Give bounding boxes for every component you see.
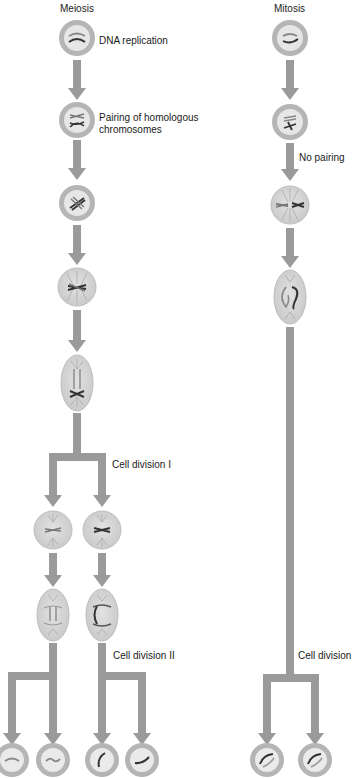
cell-meiosis-metaphase-1 xyxy=(58,268,96,306)
cell-mitosis-interphase xyxy=(272,20,308,56)
label-no-pairing: No pairing xyxy=(299,152,345,164)
cell-meiosis-anaphase-2-left xyxy=(37,589,69,641)
branch-mitosis-cell-division xyxy=(258,327,324,745)
cell-meiosis-interphase xyxy=(59,20,95,56)
header-meiosis: Meiosis xyxy=(60,3,94,15)
cell-meiosis-tetrad xyxy=(59,185,95,221)
header-mitosis: Mitosis xyxy=(274,3,305,15)
cell-meiosis-metaphase-2-left xyxy=(34,511,72,549)
label-dna-replication: DNA replication xyxy=(99,35,168,47)
arrow-right-metaphase2 xyxy=(93,553,111,587)
cell-meiosis-anaphase-2-right xyxy=(86,589,118,641)
cell-gamete-1 xyxy=(0,743,29,777)
cell-gamete-4 xyxy=(125,743,159,777)
label-cell-division-1: Cell division I xyxy=(112,459,171,471)
arrow-pairing-to-tetrad xyxy=(68,140,86,180)
arrow-mitosis-replication xyxy=(281,60,299,100)
label-cell-division: Cell division xyxy=(298,650,351,662)
arrow-mitosis-metaphase xyxy=(281,228,299,268)
cell-meiosis-metaphase-2-right xyxy=(83,511,121,549)
branch-cell-division-1 xyxy=(44,413,111,507)
branch-cell-division-2-left xyxy=(3,643,62,745)
cell-mitosis-metaphase xyxy=(271,186,309,224)
arrow-mitosis-no-pairing xyxy=(281,143,299,181)
arrow-left-metaphase2 xyxy=(44,553,62,587)
cell-meiosis-anaphase-1 xyxy=(61,355,93,411)
cell-mitosis-daughter-2 xyxy=(298,743,332,777)
cell-gamete-2 xyxy=(36,743,70,777)
cell-meiosis-replicated xyxy=(59,102,95,138)
arrow-tetrad-to-metaphase1 xyxy=(68,225,86,265)
cell-mitosis-anaphase xyxy=(274,270,306,324)
label-pairing-line1: Pairing of homologous xyxy=(99,112,199,124)
arrow-metaphase1-to-anaphase1 xyxy=(68,310,86,352)
arrow-replication-to-pairing xyxy=(68,60,86,100)
cell-mitosis-daughter-1 xyxy=(250,743,284,777)
cell-mitosis-replicated xyxy=(272,104,308,140)
label-pairing-line2: chromosomes xyxy=(99,124,162,136)
label-cell-division-2: Cell division II xyxy=(113,650,175,662)
cell-gamete-3 xyxy=(85,743,119,777)
